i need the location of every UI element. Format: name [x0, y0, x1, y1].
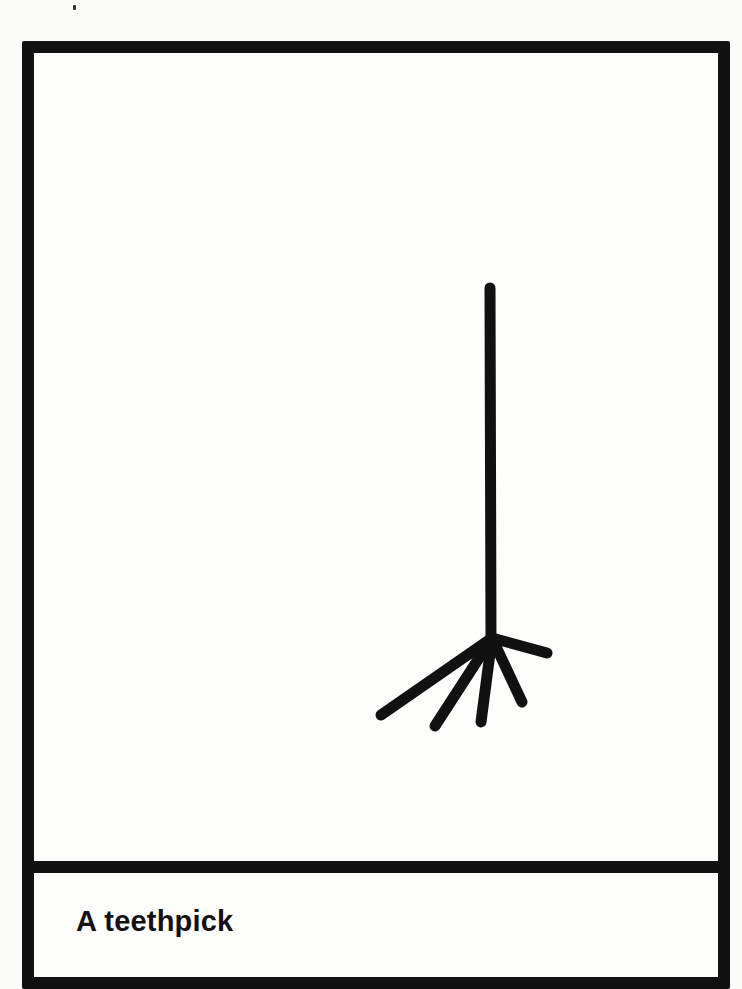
scan-speck	[73, 5, 76, 10]
caption-panel: A teethpick	[34, 873, 718, 977]
toothpick-handle	[490, 288, 491, 638]
illustration-panel	[34, 53, 718, 861]
droodle-card: A teethpick	[22, 41, 730, 989]
bristle-1	[381, 638, 492, 715]
caption-text: A teethpick	[76, 905, 233, 938]
caption-divider	[34, 861, 718, 873]
teethpick-illustration-icon	[34, 53, 718, 861]
